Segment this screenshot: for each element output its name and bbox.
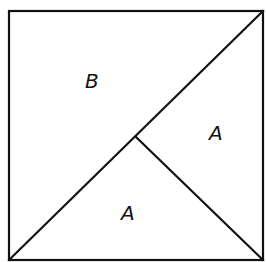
label-region-a-bottom: A: [119, 201, 135, 225]
square-dissection-diagram: B A A: [0, 0, 266, 262]
label-region-a-right: A: [207, 121, 223, 145]
inner-segment: [136, 137, 263, 260]
label-region-b: B: [85, 69, 99, 93]
